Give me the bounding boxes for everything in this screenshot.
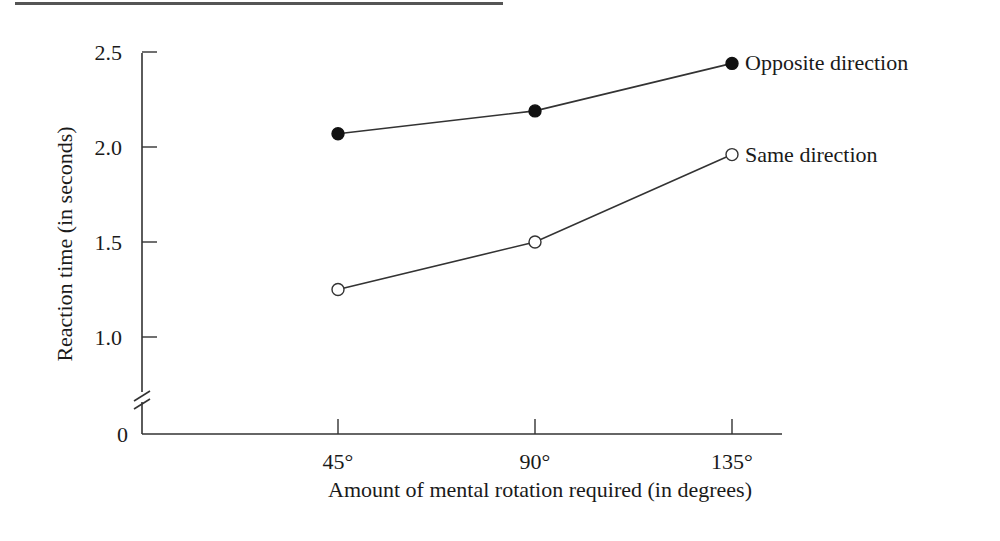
y-tick-label: 2.0 <box>95 135 123 160</box>
legend-label: Same direction <box>745 142 878 167</box>
x-tick-label: 90° <box>520 449 551 474</box>
y-tick-label: 1.0 <box>95 325 123 350</box>
line-chart: 01.01.52.02.5 45°90°135° Opposite direct… <box>0 0 1000 541</box>
legend-label: Opposite direction <box>745 50 908 75</box>
series-group: Opposite directionSame direction <box>332 50 908 295</box>
x-axis-ticks: 45°90°135° <box>323 419 753 474</box>
filled-circle-marker-icon <box>332 128 344 140</box>
y-axis-title: Reaction time (in seconds) <box>52 126 77 361</box>
open-circle-marker-icon <box>726 149 738 161</box>
open-circle-marker-icon <box>332 284 344 296</box>
x-axis-title: Amount of mental rotation required (in d… <box>328 477 752 502</box>
y-tick-label: 2.5 <box>95 40 123 65</box>
y-tick-label: 0 <box>117 422 128 447</box>
series-opposite-direction: Opposite direction <box>332 50 908 139</box>
x-tick-label: 135° <box>711 449 753 474</box>
filled-circle-marker-icon <box>726 57 738 69</box>
series-same-direction: Same direction <box>332 142 878 296</box>
x-tick-label: 45° <box>323 449 354 474</box>
y-axis-ticks: 01.01.52.02.5 <box>95 40 158 447</box>
series-line <box>338 63 732 133</box>
open-circle-marker-icon <box>529 236 541 248</box>
series-line <box>338 155 732 290</box>
filled-circle-marker-icon <box>529 105 541 117</box>
y-tick-label: 1.5 <box>95 230 123 255</box>
